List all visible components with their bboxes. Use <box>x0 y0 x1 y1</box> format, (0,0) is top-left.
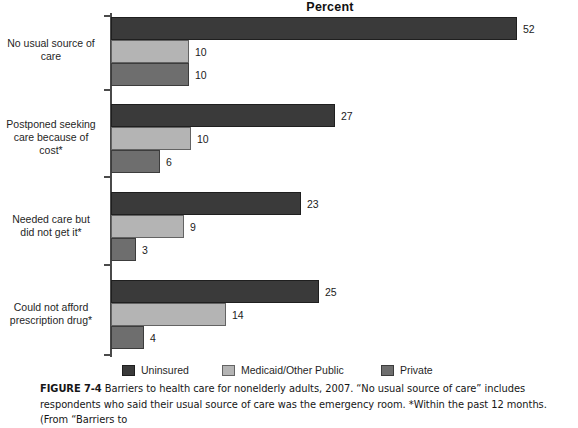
bar-row-medicaid: 10 <box>111 40 311 63</box>
bar-private[interactable] <box>111 63 189 86</box>
category-label-line-2: prescription drug* <box>10 314 92 326</box>
bar-value-uninsured: 27 <box>341 110 353 122</box>
bar-value-uninsured: 25 <box>325 286 337 298</box>
bar-row-medicaid: 9 <box>111 215 291 238</box>
bar-value-medicaid: 9 <box>190 221 196 233</box>
bar-row-private: 6 <box>111 150 271 173</box>
bar-value-uninsured: 52 <box>523 23 535 35</box>
axis-tick-4 <box>104 354 111 356</box>
category-label: Needed care but did not get it* <box>0 213 102 239</box>
bar-medicaid[interactable] <box>111 303 226 326</box>
chart-legend: Uninsured Medicaid/Other Public Private <box>0 363 578 377</box>
legend-swatch-icon-private <box>381 365 394 376</box>
bar-value-private: 6 <box>166 156 172 168</box>
bar-row-uninsured: 25 <box>111 280 411 303</box>
category-group-postponed-seeking-care: Postponed seeking care because of cost* … <box>0 101 578 177</box>
bar-row-uninsured: 52 <box>111 17 571 40</box>
bar-row-uninsured: 27 <box>111 104 411 127</box>
category-label-line-1: Could not afford <box>14 301 89 313</box>
category-label-line-1: Postponed seeking <box>6 118 95 130</box>
category-label: Could not afford prescription drug* <box>0 301 102 327</box>
bar-value-private: 10 <box>195 69 207 81</box>
category-label: No usual source of care <box>0 37 102 63</box>
legend-label-private: Private <box>400 364 433 376</box>
bar-value-private: 3 <box>142 244 148 256</box>
legend-label-uninsured: Uninsured <box>141 364 189 376</box>
bar-value-medicaid: 10 <box>197 133 209 145</box>
figure-caption: FIGURE 7-4 Barriers to health care for n… <box>40 381 572 428</box>
bar-private[interactable] <box>111 238 136 261</box>
bar-row-uninsured: 23 <box>111 192 391 215</box>
figure-number: FIGURE 7-4 <box>40 383 102 394</box>
category-label: Postponed seeking care because of cost* <box>0 118 102 157</box>
legend-item-private[interactable]: Private <box>381 363 433 377</box>
category-label-line-3: cost* <box>39 144 62 156</box>
bar-value-uninsured: 23 <box>307 198 319 210</box>
bar-row-private: 10 <box>111 63 311 86</box>
bar-row-medicaid: 14 <box>111 303 331 326</box>
legend-label-medicaid: Medicaid/Other Public <box>241 364 344 376</box>
legend-item-medicaid-other-public[interactable]: Medicaid/Other Public <box>222 363 344 377</box>
bar-medicaid[interactable] <box>111 40 189 63</box>
chart-title: Percent <box>260 0 400 14</box>
category-label-line-2: did not get it* <box>20 226 81 238</box>
bar-value-medicaid: 10 <box>195 46 207 58</box>
category-group-needed-care: Needed care but did not get it* 23 9 3 <box>0 189 578 265</box>
bar-uninsured[interactable] <box>111 104 335 127</box>
category-label-line-2: care <box>41 50 61 62</box>
bar-private[interactable] <box>111 150 160 173</box>
figure-caption-text: Barriers to health care for nonelderly a… <box>40 383 547 425</box>
bar-value-private: 4 <box>150 332 156 344</box>
category-label-line-1: Needed care but <box>12 213 90 225</box>
plot-area: No usual source of care 52 10 10 Postpon… <box>0 13 578 358</box>
legend-swatch-icon-uninsured <box>122 365 135 376</box>
bar-medicaid[interactable] <box>111 127 191 150</box>
bar-row-private: 3 <box>111 238 251 261</box>
bar-row-private: 4 <box>111 326 251 349</box>
legend-item-uninsured[interactable]: Uninsured <box>122 363 189 377</box>
bar-uninsured[interactable] <box>111 280 319 303</box>
category-label-line-1: No usual source of <box>7 37 95 49</box>
bar-private[interactable] <box>111 326 144 349</box>
bar-row-medicaid: 10 <box>111 127 311 150</box>
bar-uninsured[interactable] <box>111 17 517 40</box>
axis-tick-1 <box>104 89 111 91</box>
bar-value-medicaid: 14 <box>232 309 244 321</box>
legend-swatch-icon-medicaid <box>222 365 235 376</box>
bar-uninsured[interactable] <box>111 192 301 215</box>
category-group-prescription-drug: Could not afford prescription drug* 25 1… <box>0 277 578 353</box>
bar-medicaid[interactable] <box>111 215 184 238</box>
category-group-no-usual-source-of-care: No usual source of care 52 10 10 <box>0 13 578 89</box>
category-label-line-2: care because of <box>14 131 89 143</box>
